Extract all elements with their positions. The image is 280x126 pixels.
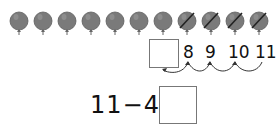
- count-back-answer-box[interactable]: [149, 39, 179, 68]
- balloon-crossed-icon: [250, 12, 268, 35]
- arrowhead-icon: [162, 68, 167, 72]
- balloon-crossed-icon: [226, 12, 244, 35]
- number-8: 8: [183, 42, 194, 62]
- balloon-icon: [130, 12, 148, 35]
- number-9: 9: [205, 42, 216, 62]
- balloons-row: [0, 0, 280, 40]
- arc-10-to-9: [210, 62, 235, 71]
- number-11: 11: [255, 42, 277, 62]
- balloon-icon: [58, 12, 76, 35]
- arc-9-to-8: [188, 62, 210, 71]
- balloon-icon: [10, 12, 28, 35]
- balloon-crossed-icon: [178, 12, 196, 35]
- balloon-crossed-icon: [202, 12, 220, 35]
- balloon-icon: [34, 12, 52, 35]
- arc-11-to-10: [235, 62, 262, 71]
- equation-answer-box[interactable]: [159, 86, 197, 124]
- balloon-icon: [154, 12, 172, 35]
- balloon-icon: [82, 12, 100, 35]
- balloon-icon: [106, 12, 124, 35]
- number-10: 10: [228, 42, 250, 62]
